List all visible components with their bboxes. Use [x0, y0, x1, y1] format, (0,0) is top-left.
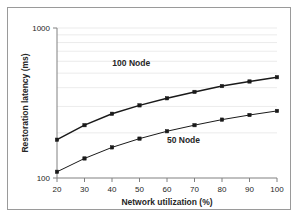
series-label: 50 Node [167, 135, 200, 145]
data-point [110, 146, 113, 149]
x-tick-label: 30 [80, 185, 89, 194]
x-tick-label: 60 [163, 185, 172, 194]
x-axis-title: Network utilization (%) [121, 197, 212, 207]
series-group [55, 75, 278, 173]
data-point [248, 80, 251, 83]
data-point [275, 75, 278, 78]
data-point [193, 90, 196, 93]
x-tick-label: 50 [135, 185, 144, 194]
x-axis-ticks: 2030405060708090100 [53, 178, 285, 194]
grid-lines [57, 28, 277, 133]
data-point [110, 112, 113, 115]
y-axis-title: Restoration latency (ms) [20, 53, 30, 152]
data-point [275, 109, 278, 112]
line-chart: 1001000 2030405060708090100 100 Node50 N… [0, 0, 303, 222]
data-point [138, 137, 141, 140]
x-tick-label: 40 [108, 185, 117, 194]
data-point [83, 123, 86, 126]
data-point [220, 84, 223, 87]
data-point [248, 113, 251, 116]
x-tick-label: 20 [53, 185, 62, 194]
chart-container: 1001000 2030405060708090100 100 Node50 N… [0, 0, 303, 222]
data-point [165, 130, 168, 133]
y-tick-label: 1000 [32, 24, 50, 33]
x-tick-label: 100 [270, 185, 284, 194]
series-label: 100 Node [112, 58, 150, 68]
data-point [55, 170, 58, 173]
x-tick-label: 70 [190, 185, 199, 194]
data-point [55, 138, 58, 141]
data-point [193, 123, 196, 126]
data-point [83, 157, 86, 160]
x-tick-label: 90 [245, 185, 254, 194]
data-point [220, 118, 223, 121]
data-point [165, 97, 168, 100]
y-tick-label: 100 [37, 174, 51, 183]
data-point [138, 104, 141, 107]
x-tick-label: 80 [218, 185, 227, 194]
y-axis-ticks: 1001000 [32, 24, 57, 183]
